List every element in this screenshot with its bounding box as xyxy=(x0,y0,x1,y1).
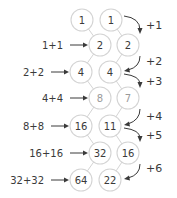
node-value: 64 xyxy=(75,175,88,186)
doubling-label: 16+16 xyxy=(29,148,63,159)
doubling-label: 32+32 xyxy=(10,175,44,186)
node-value: 8 xyxy=(97,93,103,104)
curved-arrow-icon xyxy=(124,128,140,138)
node-value: 4 xyxy=(78,67,84,78)
node-value: 1 xyxy=(79,15,85,26)
sequence-diagram: 1 2 4 8 16 32 64 1 2 4 7 11 16 22 1+1 2+… xyxy=(0,0,177,198)
node-value: 16 xyxy=(75,121,88,132)
doubling-label: 8+8 xyxy=(23,121,44,132)
doubling-labels: 1+1 2+2 4+4 8+8 16+16 32+32 xyxy=(10,40,88,186)
increment-label: +6 xyxy=(146,162,162,175)
increment-label: +1 xyxy=(146,19,162,32)
increment-label: +5 xyxy=(146,129,162,142)
curved-arrow-icon xyxy=(128,164,140,178)
increment-label: +2 xyxy=(146,55,162,68)
doubling-label: 2+2 xyxy=(23,67,44,78)
curved-arrow-icon xyxy=(124,74,140,84)
curved-arrow-icon xyxy=(128,109,140,124)
node-value: 4 xyxy=(107,67,113,78)
node-value: 11 xyxy=(104,121,117,132)
node-value: 1 xyxy=(108,15,114,26)
increment-label: +4 xyxy=(146,110,162,123)
doubling-label: 4+4 xyxy=(42,93,63,104)
curved-arrow-icon xyxy=(128,56,140,70)
node-value: 2 xyxy=(97,40,103,51)
node-value: 16 xyxy=(122,148,135,159)
node-value: 22 xyxy=(104,175,117,186)
doubling-label: 1+1 xyxy=(42,40,63,51)
left-column: 1 2 4 8 16 32 64 xyxy=(70,9,111,191)
curved-arrow-icon xyxy=(124,16,140,30)
increment-label: +3 xyxy=(146,75,162,88)
node-value: 32 xyxy=(94,148,107,159)
node-value: 7 xyxy=(125,93,131,104)
node-value: 2 xyxy=(125,40,131,51)
